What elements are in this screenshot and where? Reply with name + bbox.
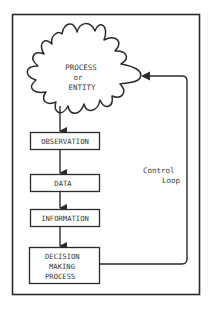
data-box: DATA	[31, 175, 100, 192]
process-entity-cloud: PROCESS or ENTITY	[27, 24, 141, 114]
cloud-text-line1: PROCESS	[65, 63, 97, 72]
observation-box: OBSERVATION	[31, 133, 100, 150]
data-label: DATA	[54, 179, 72, 188]
control-loop-arrowhead-icon	[141, 72, 150, 81]
observation-label: OBSERVATION	[41, 137, 89, 146]
decision-making-box: DECISION MAKING PROCESS	[30, 248, 100, 284]
information-label: INFORMATION	[41, 214, 89, 223]
control-loop-label-line2: Loop	[162, 176, 181, 185]
control-loop-label-line1: Control	[143, 166, 175, 175]
cloud-text-line2: or	[73, 73, 83, 82]
cloud-text-line3: ENTITY	[68, 83, 96, 92]
control-loop-diagram: PROCESS or ENTITY OBSERVATION DATA INFOR…	[0, 0, 208, 310]
information-box: INFORMATION	[31, 210, 100, 227]
decision-label-line2: MAKING	[49, 262, 75, 271]
decision-label-line3: PROCESS	[45, 272, 75, 281]
decision-label-line1: DECISION	[45, 252, 80, 261]
